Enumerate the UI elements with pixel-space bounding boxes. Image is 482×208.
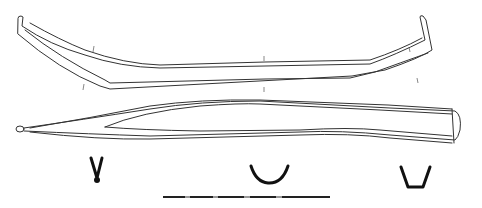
cross-sections bbox=[91, 158, 430, 187]
section-2-u bbox=[251, 166, 288, 183]
section-marker bbox=[93, 46, 94, 52]
section-1-base bbox=[94, 177, 100, 183]
artifact-drawing bbox=[0, 0, 482, 208]
tip-ring bbox=[16, 126, 24, 132]
section-marker bbox=[83, 84, 84, 90]
plan-view bbox=[16, 100, 460, 143]
section-marker bbox=[417, 78, 418, 83]
side-profile-view bbox=[18, 16, 432, 92]
section-3-trapezoid bbox=[401, 167, 430, 187]
section-1-v bbox=[91, 158, 102, 178]
